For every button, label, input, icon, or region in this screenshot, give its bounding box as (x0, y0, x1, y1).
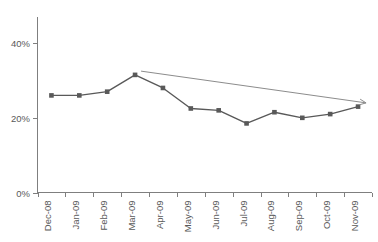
x-axis-tick-label: Apr-09 (154, 201, 165, 230)
x-axis-tick-label: Jul-09 (238, 201, 249, 227)
data-point-marker (77, 93, 82, 98)
x-axis-tick-label: Aug-09 (265, 201, 276, 232)
data-point-marker (244, 121, 249, 126)
y-axis-tick-label: 40% (11, 38, 31, 49)
x-axis-tick-label: Mar-09 (126, 201, 137, 231)
data-point-marker (272, 110, 277, 115)
x-axis-tick-label: Jun-09 (210, 201, 221, 230)
data-point-marker (216, 108, 221, 113)
line-chart: 0%20%40% Dec-08Jan-09Feb-09Mar-09Apr-09M… (0, 0, 378, 242)
data-point-marker (300, 116, 305, 121)
x-axis-tick-label: Feb-09 (98, 201, 109, 231)
x-axis-ticks (39, 193, 373, 198)
x-axis-tick-label: Jan-09 (70, 201, 81, 230)
x-axis-tick-label: Oct-09 (321, 201, 332, 230)
y-axis: 0%20%40% (11, 17, 38, 199)
x-axis-tick-labels: Dec-08Jan-09Feb-09Mar-09Apr-09May-09Jun-… (42, 201, 360, 233)
x-axis-tick-label: May-09 (182, 201, 193, 233)
series-line (51, 75, 358, 124)
chart-canvas: 0%20%40% Dec-08Jan-09Feb-09Mar-09Apr-09M… (0, 0, 378, 242)
y-axis-tick-label: 20% (11, 113, 31, 124)
x-axis-tick-label: Dec-08 (42, 201, 53, 232)
data-point-marker (49, 93, 54, 98)
data-point-marker (328, 112, 333, 117)
data-point-marker (105, 89, 110, 94)
data-point-marker (161, 86, 166, 91)
trend-arrow-line (141, 71, 366, 103)
x-axis-tick-label: Sep-09 (293, 201, 304, 232)
y-axis-ticks (33, 44, 38, 194)
declining-trend-arrow (141, 71, 366, 105)
x-axis-tick-label: Nov-09 (349, 201, 360, 232)
x-axis: Dec-08Jan-09Feb-09Mar-09Apr-09May-09Jun-… (38, 193, 373, 233)
data-point-marker (189, 106, 194, 111)
y-axis-tick-labels: 0%20%40% (11, 38, 31, 199)
y-axis-tick-label: 0% (16, 188, 30, 199)
data-point-marker (133, 73, 138, 78)
